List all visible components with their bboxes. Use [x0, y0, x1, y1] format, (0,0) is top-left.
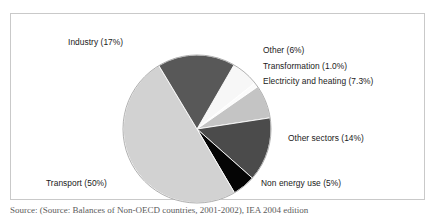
- slice-label-transformation: Transformation (1.0%): [263, 62, 347, 71]
- slice-label-other: Other (6%): [263, 46, 304, 55]
- slice-label-other-sectors: Other sectors (14%): [288, 134, 364, 143]
- slice-label-transport: Transport (50%): [46, 179, 107, 188]
- slice-label-non-energy-use: Non energy use (5%): [261, 179, 341, 188]
- slice-label-industry: Industry (17%): [68, 38, 123, 47]
- figure-screenshot: Industry (17%) Other (6%) Transformation…: [0, 0, 439, 217]
- chart-frame: Industry (17%) Other (6%) Transformation…: [10, 13, 425, 200]
- source-note: Source: (Source: Balances of Non-OECD co…: [10, 205, 435, 215]
- slice-label-electricity-and-heating: Electricity and heating (7.3%): [263, 77, 373, 86]
- pie-slice-group: [123, 55, 271, 203]
- pie-chart: [122, 54, 272, 204]
- pie-chart-svg: [122, 54, 272, 204]
